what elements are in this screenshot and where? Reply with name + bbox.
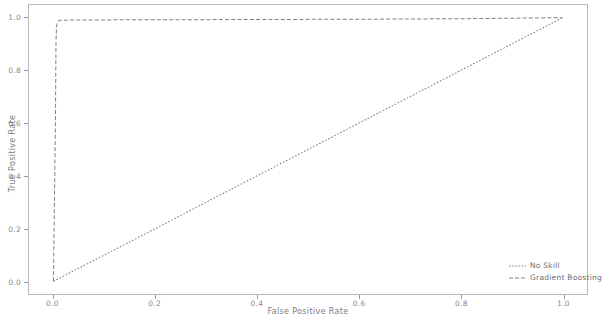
plot-axes-area	[28, 4, 588, 295]
legend-label-gradient-boosting: Gradient Boosting	[530, 273, 602, 282]
y-tick-mark	[24, 282, 28, 283]
y-axis-label: True Positive Rate	[8, 109, 17, 199]
series-line-no-skill	[53, 18, 562, 282]
plot-canvas	[29, 5, 587, 294]
y-tick-label: 0.2	[8, 225, 21, 234]
y-tick-mark	[24, 229, 28, 230]
y-tick-label: 1.0	[8, 12, 21, 21]
y-tick-mark	[24, 123, 28, 124]
y-tick-mark	[24, 17, 28, 18]
y-tick-label: 0.8	[8, 65, 21, 74]
x-axis-label: False Positive Rate	[28, 307, 588, 316]
legend-line-sample-dotted-icon	[509, 263, 526, 269]
y-tick-label: 0.0	[8, 278, 21, 287]
y-tick-mark	[24, 70, 28, 71]
legend-line-sample-dashed-icon	[509, 275, 526, 281]
legend-item-gradient-boosting[interactable]: Gradient Boosting	[509, 272, 586, 283]
legend-item-no-skill[interactable]: No Skill	[509, 260, 586, 271]
y-tick-mark	[24, 176, 28, 177]
chart-legend: No Skill Gradient Boosting	[506, 258, 588, 286]
legend-label-no-skill: No Skill	[530, 261, 560, 270]
